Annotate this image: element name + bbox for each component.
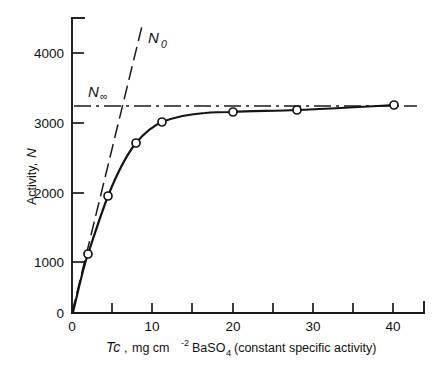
data-point — [229, 108, 237, 116]
data-point — [158, 118, 166, 126]
x-axis-title-note: (constant specific activity) — [234, 341, 376, 355]
y-tick-label-0: 0 — [56, 306, 64, 321]
x-tick-label-30: 30 — [305, 319, 320, 334]
n-zero-label-symbol: N — [148, 29, 159, 46]
activity-data-curve — [73, 105, 394, 312]
x-axis-title-units: mg cm — [132, 341, 170, 355]
y-axis-title-symbol: N — [24, 148, 39, 158]
x-axis-ticks — [112, 303, 393, 313]
n-zero-label-subscript: 0 — [161, 38, 167, 50]
n-zero-label: N 0 — [148, 29, 167, 50]
n-infinity-label: N ∞ — [88, 83, 108, 102]
x-axis-title-unit-exponent: -2 — [181, 338, 189, 348]
data-point — [390, 101, 398, 109]
data-point — [104, 192, 112, 200]
x-tick-label-0: 0 — [68, 319, 76, 334]
x-axis-title-compound-subscript: 4 — [226, 347, 231, 358]
n-infinity-label-subscript: ∞ — [100, 90, 108, 102]
data-point — [293, 106, 301, 114]
x-axis-title-compound: BaSO — [192, 341, 226, 355]
data-point — [84, 250, 92, 258]
chart-figure: 4000 3000 2000 1000 0 0 10 20 30 40 — [0, 0, 444, 372]
x-tick-label-10: 10 — [144, 319, 159, 334]
x-axis-title-comma: , — [124, 341, 127, 355]
x-axis-title-symbol: Tc — [106, 339, 120, 355]
x-axis-title: Tc , mg cm -2 BaSO 4 (constant specific … — [106, 338, 376, 358]
y-tick-label-3000: 3000 — [34, 116, 64, 131]
n-infinity-label-symbol: N — [88, 83, 99, 100]
y-tick-label-1000: 1000 — [34, 255, 64, 270]
y-axis-title: Activity, N — [24, 148, 39, 205]
x-axis-tick-labels: 0 10 20 30 40 — [68, 319, 400, 334]
y-axis-title-prefix: Activity, — [25, 163, 39, 205]
y-tick-label-4000: 4000 — [34, 46, 64, 61]
chart-canvas: 4000 3000 2000 1000 0 0 10 20 30 40 — [0, 0, 444, 372]
data-point — [132, 139, 140, 147]
data-point-markers — [84, 101, 398, 258]
x-tick-label-20: 20 — [225, 319, 240, 334]
axes-frame — [72, 18, 424, 313]
x-tick-label-40: 40 — [385, 319, 400, 334]
y-axis-ticks — [72, 53, 84, 262]
